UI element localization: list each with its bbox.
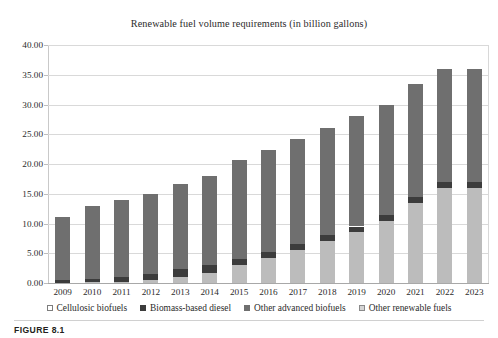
bar-segment[interactable] — [232, 265, 247, 283]
bar-group[interactable] — [467, 69, 482, 283]
bar-segment[interactable] — [467, 182, 482, 188]
figure-divider — [14, 320, 484, 321]
y-axis-tick-label: 35.00 — [0, 70, 43, 80]
bar-segment[interactable] — [437, 69, 452, 155]
bar-segment[interactable] — [408, 197, 423, 203]
bar-segment[interactable] — [467, 188, 482, 283]
bar-segment[interactable] — [261, 258, 276, 283]
bar-segment[interactable] — [55, 280, 70, 283]
bar-segment[interactable] — [114, 277, 129, 282]
bar-segment[interactable] — [143, 274, 158, 280]
legend-item[interactable]: Other renewable fuels — [359, 303, 452, 313]
x-axis-tick-label: 2020 — [377, 287, 395, 297]
x-axis-tick-label: 2022 — [436, 287, 454, 297]
bar-segment[interactable] — [55, 279, 70, 280]
bar-segment[interactable] — [467, 155, 482, 182]
bar-segment[interactable] — [379, 191, 394, 215]
bar-segment[interactable] — [261, 240, 276, 252]
bar-segment[interactable] — [379, 221, 394, 283]
bar-segment[interactable] — [143, 280, 158, 283]
figure-caption: FIGURE 8.1 — [14, 325, 65, 335]
bar-segment[interactable] — [467, 69, 482, 155]
bar-segment[interactable] — [408, 170, 423, 197]
bar-segment[interactable] — [261, 150, 276, 240]
bar-segment[interactable] — [173, 269, 188, 277]
bar-segment[interactable] — [320, 128, 335, 218]
bar-segment[interactable] — [320, 235, 335, 241]
bar-segment[interactable] — [290, 229, 305, 244]
bar-segment[interactable] — [114, 282, 129, 283]
bar-segment[interactable] — [290, 250, 305, 283]
bar-segment[interactable] — [320, 241, 335, 283]
y-tick-mark — [44, 224, 48, 225]
bar-segment[interactable] — [143, 271, 158, 274]
bar-segment[interactable] — [349, 227, 364, 233]
x-axis-tick-label: 2016 — [259, 287, 277, 297]
bar-segment[interactable] — [349, 116, 364, 205]
bar-segment[interactable] — [349, 206, 364, 227]
bar-group[interactable] — [408, 84, 423, 283]
bar-segment[interactable] — [320, 218, 335, 236]
legend-item[interactable]: Biomass-based diesel — [140, 303, 231, 313]
bar-group[interactable] — [173, 184, 188, 283]
bar-group[interactable] — [55, 217, 70, 283]
y-axis-tick-label: 15.00 — [0, 189, 43, 199]
bar-segment[interactable] — [173, 277, 188, 283]
bar-segment[interactable] — [202, 265, 217, 273]
bar-group[interactable] — [261, 150, 276, 283]
bar-group[interactable] — [85, 206, 100, 283]
bar-segment[interactable] — [437, 182, 452, 188]
legend-item[interactable]: Other advanced biofuels — [244, 303, 346, 313]
bar-group[interactable] — [379, 105, 394, 284]
bar-group[interactable] — [202, 176, 217, 283]
bar-segment[interactable] — [114, 200, 129, 275]
y-tick-mark — [44, 45, 48, 46]
bar-segment[interactable] — [379, 105, 394, 191]
bar-group[interactable] — [437, 69, 452, 283]
legend-label: Biomass-based diesel — [150, 303, 231, 313]
legend-label: Other advanced biofuels — [254, 303, 346, 313]
y-axis-tick-label: 5.00 — [0, 248, 43, 258]
legend-item[interactable]: Cellulosic biofuels — [47, 303, 128, 313]
bar-segment[interactable] — [173, 184, 188, 265]
bar-group[interactable] — [290, 139, 305, 283]
y-tick-mark — [44, 253, 48, 254]
bar-segment[interactable] — [85, 206, 100, 278]
bar-segment[interactable] — [408, 84, 423, 170]
x-axis-tick-label: 2018 — [318, 287, 336, 297]
bar-segment[interactable] — [55, 217, 70, 279]
bar-segment[interactable] — [85, 279, 100, 283]
bars-layer — [48, 45, 489, 284]
bar-segment[interactable] — [232, 259, 247, 265]
bar-segment[interactable] — [290, 139, 305, 229]
y-axis-tick-label: 40.00 — [0, 40, 43, 50]
bar-segment[interactable] — [173, 265, 188, 269]
bar-segment[interactable] — [85, 282, 100, 283]
bar-segment[interactable] — [408, 203, 423, 283]
bar-segment[interactable] — [437, 188, 452, 283]
bar-segment[interactable] — [379, 215, 394, 221]
bar-group[interactable] — [143, 194, 158, 283]
legend-swatch — [47, 305, 53, 311]
bar-segment[interactable] — [114, 275, 129, 277]
bar-segment[interactable] — [202, 259, 217, 265]
y-axis-tick-label: 30.00 — [0, 100, 43, 110]
bar-segment[interactable] — [437, 155, 452, 182]
bar-segment[interactable] — [232, 250, 247, 259]
bar-segment[interactable] — [261, 252, 276, 258]
y-axis-tick-label: 0.00 — [0, 278, 43, 288]
bar-segment[interactable] — [232, 160, 247, 250]
bar-segment[interactable] — [85, 278, 100, 279]
bar-group[interactable] — [232, 160, 247, 283]
y-tick-mark — [44, 105, 48, 106]
bar-segment[interactable] — [202, 176, 217, 259]
bar-group[interactable] — [320, 128, 335, 283]
bar-group[interactable] — [114, 200, 129, 283]
bar-segment[interactable] — [290, 244, 305, 250]
bar-segment[interactable] — [202, 273, 217, 283]
bar-segment[interactable] — [143, 194, 158, 271]
bar-segment[interactable] — [349, 232, 364, 283]
x-axis-tick-label: 2019 — [348, 287, 366, 297]
y-tick-mark — [44, 75, 48, 76]
bar-group[interactable] — [349, 116, 364, 283]
